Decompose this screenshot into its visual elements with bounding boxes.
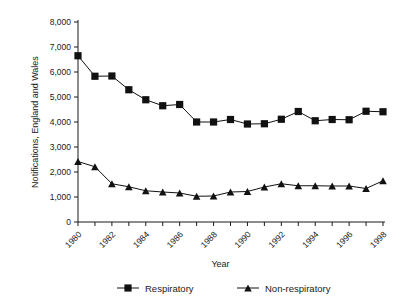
x-tick-label: 1998 <box>368 229 389 250</box>
data-point-respiratory-1993 <box>295 108 302 115</box>
data-point-respiratory-1990 <box>244 120 251 127</box>
x-tick-label: 1990 <box>232 229 253 250</box>
x-tick-label: 1986 <box>165 229 186 250</box>
data-point-non-respiratory-1981 <box>91 163 99 170</box>
x-axis-title: Year <box>211 259 229 269</box>
y-tick-label: 0 <box>66 217 71 227</box>
chart-container: 01,0002,0003,0004,0005,0006,0007,0008,00… <box>0 0 400 305</box>
y-tick-label: 7,000 <box>50 42 72 52</box>
data-point-respiratory-1985 <box>159 102 166 109</box>
legend-label-non-respiratory: Non-respiratory <box>265 283 331 294</box>
y-tick-label: 2,000 <box>50 167 72 177</box>
x-tick-label: 1996 <box>334 229 355 250</box>
data-point-respiratory-1983 <box>125 86 132 93</box>
data-point-non-respiratory-1991 <box>261 184 269 191</box>
x-tick-label: 1982 <box>97 229 118 250</box>
data-point-respiratory-1998 <box>379 108 386 115</box>
series-line-respiratory <box>78 56 383 124</box>
x-tick-label: 1984 <box>131 229 152 250</box>
data-point-respiratory-1984 <box>142 96 149 103</box>
data-point-non-respiratory-1998 <box>379 177 387 184</box>
line-chart: 01,0002,0003,0004,0005,0006,0007,0008,00… <box>0 0 400 305</box>
data-point-respiratory-1982 <box>108 72 115 79</box>
y-tick-label: 5,000 <box>50 92 72 102</box>
x-tick-label: 1980 <box>63 229 84 250</box>
data-point-respiratory-1997 <box>362 108 369 115</box>
y-tick-label: 4,000 <box>50 117 72 127</box>
legend-marker-respiratory <box>124 284 131 291</box>
x-tick-label: 1992 <box>266 229 287 250</box>
data-point-respiratory-1986 <box>176 101 183 108</box>
data-point-respiratory-1995 <box>329 116 336 123</box>
y-tick-label: 6,000 <box>50 67 72 77</box>
data-point-respiratory-1994 <box>312 117 319 124</box>
legend-label-respiratory: Respiratory <box>145 283 194 294</box>
x-tick-label: 1988 <box>199 229 220 250</box>
data-point-respiratory-1980 <box>74 52 81 59</box>
y-tick-label: 1,000 <box>50 192 72 202</box>
data-point-respiratory-1987 <box>193 118 200 125</box>
data-point-respiratory-1988 <box>210 118 217 125</box>
y-axis-title: Notifications, England and Wales <box>30 56 40 188</box>
data-point-respiratory-1992 <box>278 116 285 123</box>
y-tick-label: 3,000 <box>50 142 72 152</box>
y-tick-label: 8,000 <box>50 17 72 27</box>
x-tick-label: 1994 <box>300 229 321 250</box>
data-point-non-respiratory-1980 <box>74 158 82 165</box>
data-point-respiratory-1981 <box>91 73 98 80</box>
data-point-respiratory-1989 <box>227 116 234 123</box>
data-point-respiratory-1991 <box>261 120 268 127</box>
data-point-respiratory-1996 <box>346 116 353 123</box>
